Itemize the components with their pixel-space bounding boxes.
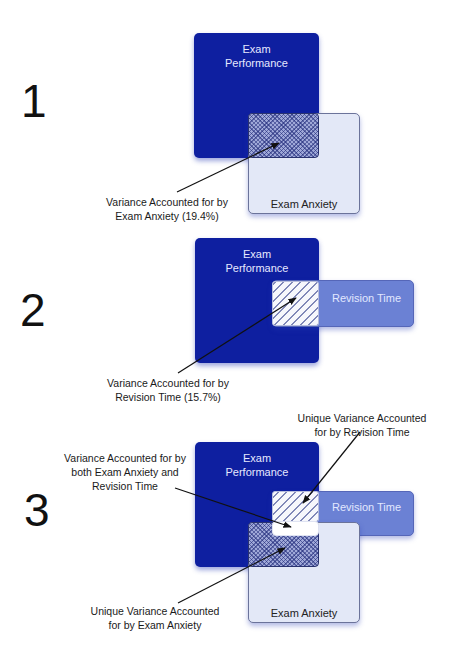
caption-line: Revision Time <box>64 479 186 493</box>
label-line: Performance <box>195 465 319 479</box>
caption-unique-anxiety: Unique Variance Accounted for by Exam An… <box>91 604 220 632</box>
shared-variance-anxiety-region <box>248 113 319 158</box>
caption-line: for by Exam Anxiety <box>91 618 220 632</box>
caption-unique-revision: Unique Variance Accounted for by Revisio… <box>298 411 427 439</box>
caption-line: both Exam Anxiety and <box>64 465 186 479</box>
caption-line: Unique Variance Accounted <box>298 411 427 425</box>
caption-shared-variance: Variance Accounted for by both Exam Anxi… <box>64 451 186 493</box>
label-line: Performance <box>194 56 319 70</box>
label-line: Exam <box>195 451 319 465</box>
label-line: Performance <box>195 261 319 275</box>
caption-line: Variance Accounted for by <box>107 376 229 390</box>
caption-line: Unique Variance Accounted <box>91 604 220 618</box>
panel-number-2: 2 <box>20 287 46 333</box>
shared-variance-revision-region <box>272 281 319 326</box>
caption-line: Variance Accounted for by <box>64 451 186 465</box>
panel-number-3: 3 <box>24 487 50 533</box>
caption-line: for by Revision Time <box>298 425 427 439</box>
shared-variance-both-region <box>272 521 319 536</box>
caption-line: Variance Accounted for by <box>106 195 228 209</box>
exam-performance-label: Exam Performance <box>195 451 319 479</box>
caption-variance-anxiety: Variance Accounted for by Exam Anxiety (… <box>106 195 228 223</box>
caption-line: Revision Time (15.7%) <box>107 390 229 404</box>
revision-time-label: Revision Time <box>320 500 413 514</box>
exam-anxiety-label: Exam Anxiety <box>249 197 359 211</box>
label-line: Exam <box>195 247 319 261</box>
caption-variance-revision: Variance Accounted for by Revision Time … <box>107 376 229 404</box>
revision-time-label: Revision Time <box>320 291 413 305</box>
caption-line: Exam Anxiety (19.4%) <box>106 209 228 223</box>
exam-performance-label: Exam Performance <box>194 42 319 70</box>
panel-number-1: 1 <box>21 78 47 124</box>
unique-variance-revision-region <box>272 491 319 522</box>
label-line: Exam <box>194 42 319 56</box>
exam-performance-label: Exam Performance <box>195 247 319 275</box>
exam-anxiety-label: Exam Anxiety <box>249 606 359 620</box>
